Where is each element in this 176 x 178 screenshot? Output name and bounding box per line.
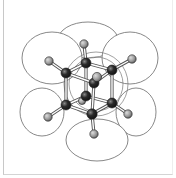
dark-atom	[87, 109, 97, 119]
dark-atom	[61, 68, 71, 78]
light-atom	[80, 40, 88, 48]
dark-atom	[107, 98, 117, 108]
molecular-structure-diagram	[0, 0, 176, 178]
lobe-shape	[66, 119, 128, 161]
light-atom	[92, 72, 101, 81]
dark-atom	[81, 91, 91, 101]
light-atom	[45, 57, 53, 65]
dark-atom	[107, 65, 117, 75]
dark-atom	[81, 58, 91, 68]
light-atom	[44, 113, 52, 121]
electron-lobes	[20, 22, 158, 161]
light-atom	[128, 55, 136, 63]
light-atom	[124, 110, 132, 118]
light-atom	[90, 130, 98, 138]
dark-atom	[61, 100, 71, 110]
